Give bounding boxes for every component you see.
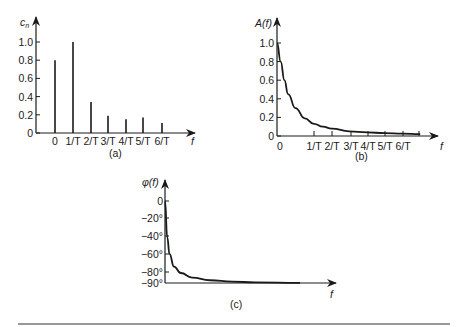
chart-c-x-label: f [330,288,334,300]
y-tick-label: 0 [157,195,163,207]
chart-c-phase-curve [165,201,300,283]
y-tick-label: 0.6 [259,74,274,86]
y-tick-label: 1.0 [259,37,274,49]
chart-a-caption: (a) [109,147,122,159]
chart-a-stems [55,42,162,133]
y-tick-label: 0.4 [259,93,274,105]
chart-b-x-label: f [440,140,444,152]
y-tick-label: 0.2 [259,111,274,123]
y-tick-label: 0.8 [18,54,33,66]
chart-c-caption: (c) [230,298,242,310]
figure: cn 00.20.40.60.81.0 01/T2/T3/T4/T5/T6/T … [0,0,463,327]
y-tick-label: −40° [141,230,163,242]
chart-b-amplitude-curve [277,43,420,134]
chart-a-x-label: f [191,135,195,147]
chart-c-y-label: φ(f) [142,176,159,188]
x-tick-label: 2/T [83,135,99,147]
x-tick-label: 0 [277,140,283,152]
y-tick-label: 1.0 [18,36,33,48]
x-tick-label: 4/T [118,135,134,147]
y-tick-label: 0 [27,127,33,139]
x-tick-label: 2/T [324,140,340,152]
chart-a-y-ticks: 00.20.40.60.81.0 [18,36,40,139]
y-tick-label: −90° [141,277,163,289]
x-tick-label: 5/T [135,135,151,147]
y-tick-label: 0.2 [18,109,33,121]
x-tick-label: 0 [52,135,58,147]
chart-a: cn 00.20.40.60.81.0 01/T2/T3/T4/T5/T6/T … [18,16,195,159]
y-tick-label: 0 [268,130,274,142]
chart-c: φ(f) 0−20°−40°−60°−80°−90° f (c) [141,176,336,310]
x-tick-label: 5/T [377,140,393,152]
x-tick-label: 6/T [154,135,170,147]
x-tick-label: 3/T [100,135,116,147]
chart-b-caption: (b) [355,150,368,162]
x-tick-label: 1/T [65,135,81,147]
chart-a-x-tick-labels: 01/T2/T3/T4/T5/T6/T [52,135,170,147]
y-tick-label: 0.8 [259,56,274,68]
chart-a-y-label: cn [20,16,29,29]
x-tick-label: 1/T [306,140,322,152]
y-tick-label: 0.4 [18,91,33,103]
y-tick-label: 0.6 [18,72,33,84]
chart-b-y-label: A(f) [254,17,272,29]
chart-b: A(f) 00.20.40.60.81.0 01/T2/T3/T4/T5/T6/… [254,17,444,162]
y-tick-label: −60° [141,248,163,260]
x-tick-label: 6/T [395,140,411,152]
chart-b-y-ticks: 00.20.40.60.81.0 [259,37,281,142]
y-tick-label: −20° [141,212,163,224]
